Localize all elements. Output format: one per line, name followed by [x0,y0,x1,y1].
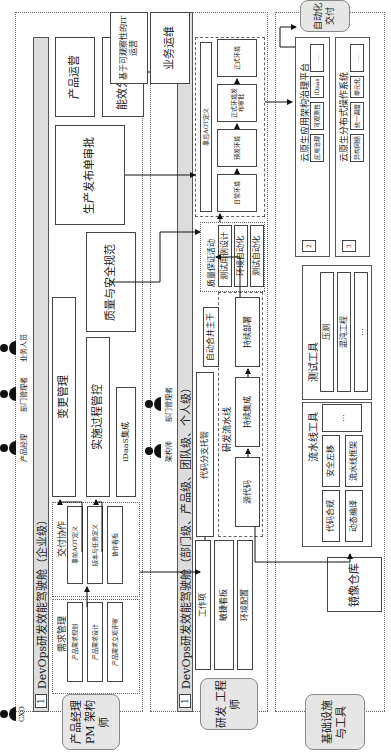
person-icon [145,401,153,409]
pipeline-framework[interactable]: 流水线框架 [345,435,363,487]
chaos-engineering[interactable]: 混沌工程 [337,272,351,392]
source-code[interactable]: 源代码 [235,457,260,527]
person-icon [0,391,8,399]
role-infra-tools: 基础设施 与工具 [305,694,365,750]
pipeline-tools-title: 流水线工具 [305,412,320,462]
role-dev-engineer: 研发 工程师 [200,678,258,730]
test-tools-title: 测试工具 [305,342,320,382]
continuous-deployment[interactable]: 持续部署 [235,297,260,367]
env-config[interactable]: 环境配置 [237,540,253,670]
devops-architecture-diagram: CXO 1 DevOps研发效能驾驶舱（企业级） 产品经理 PM 架构师 需求管… [0,0,391,752]
cloud-os-more[interactable]: ... [350,44,364,72]
person-icon [0,344,8,352]
qa-title: 质量保证活动 [205,239,216,287]
continuous-integration[interactable]: 持续集成 [235,377,260,447]
cloud-arch-more[interactable]: ... [310,44,324,72]
prod-release-approval[interactable]: 生产发布单审批 [55,125,125,225]
pre-aot-definition[interactable]: 事前AOT定义 [67,506,83,584]
band-title: DevOps研发效能驾驶舱（部门级、产品级、团队级、个人级） [177,382,193,689]
product-operations[interactable]: 产品运营 [55,37,95,117]
business-ops[interactable]: 业务运维 [150,12,190,84]
role-product-manager: 产品经理 PM 架构师 [62,694,120,750]
dynamic-compile[interactable]: 动态编译 [345,490,363,542]
staging-env[interactable]: 预发环境 [217,129,257,167]
idaas-integration[interactable]: iDaaS集成 [116,387,136,497]
person-icon [145,448,153,456]
change-management[interactable]: 变更管理 [52,297,76,497]
persona-business: 业务人员 [0,334,28,362]
dev-pipeline-title: 研发流水线 [220,407,233,452]
env-automation[interactable]: 环境自动化 [234,225,248,287]
work-item[interactable]: 工作项 [195,540,211,670]
band-title: DevOps研发效能驾驶舱（企业级） [33,514,49,689]
test-automation[interactable]: 测试自动化 [250,225,264,287]
req-design[interactable]: 产品需求设计 [87,602,103,682]
persona-dept-manager: 部门管理者 [0,377,28,412]
observability-it-ops[interactable]: 基于可观察性的IT运营 [110,12,148,84]
unitization[interactable]: 单元化 [350,76,364,98]
cloud-arch-number: 2 [302,240,316,252]
code-branch-hosting[interactable]: 代码分支托管 [196,372,214,537]
unified-scheduling[interactable]: 统一调度 [350,102,364,130]
band-number: 1 [179,694,191,708]
agile-board[interactable]: 敏捷看板 [214,540,234,670]
prod-release-approval-env[interactable]: 正式环境发布审批 [217,84,257,122]
persona-architect: 架构师 [145,441,173,462]
department-cockpit-band: 1 DevOps研发效能驾驶舱（部门级、产品级、团队级、个人级） [177,12,193,712]
image-repository[interactable]: 镜像仓库 [327,557,382,612]
cloud-os-title: 云原生分布式操作系统 [337,72,350,162]
idaas-component[interactable]: iDaas [310,76,324,98]
persona-product-manager: 产品经理 [0,434,28,462]
test-tools-more[interactable]: ... [354,272,368,392]
heterogeneous-network[interactable]: 异构网络 [350,134,364,162]
auto-merge-trunk[interactable]: 自动合并主干 [203,307,219,367]
stress-test[interactable]: 压测 [320,272,334,392]
post-aot-definition[interactable]: 事后AOT定义 [200,42,212,212]
band-number: 1 [35,694,47,708]
observability[interactable]: 可观测性 [310,102,324,130]
person-icon [0,444,8,452]
code-compliance[interactable]: 代码合规 [322,490,340,542]
daily-env[interactable]: 日常环境 [217,174,257,212]
quality-security-spec[interactable]: 质量与安全规范 [86,232,136,332]
req-planning[interactable]: 产品需求规划 [67,602,83,682]
version-task-definition[interactable]: 版本与任务定义 [87,506,103,584]
auto-delivery: 自动化 交付 [300,0,350,32]
pipeline-tools-more[interactable]: ... [322,404,362,432]
persona-cxo: CXO [0,706,26,722]
impl-process-control[interactable]: 实施过程管控 [86,337,110,497]
req-review[interactable]: 产品需求立项评审 [107,602,123,682]
enterprise-cockpit-band: 1 DevOps研发效能驾驶舱（企业级） [33,37,49,712]
test-case-design[interactable]: 测试用例设计 [218,225,232,287]
cloud-os-number: 3 [342,240,356,252]
persona-dept-manager-2: 部门管理者 [145,387,173,422]
app-governance[interactable]: 应用治理 [310,134,324,162]
person-icon [0,710,8,718]
collab-board[interactable]: 协作看板 [107,506,123,584]
prod-env[interactable]: 正式环境 [217,39,257,77]
shift-left-security[interactable]: 安全左移 [322,435,340,487]
